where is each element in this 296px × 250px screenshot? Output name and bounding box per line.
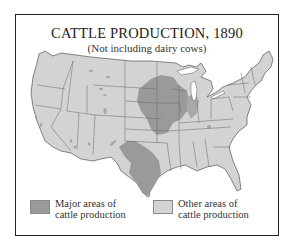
legend-swatch-other bbox=[153, 200, 173, 214]
legend-label-other: Other areas of cattle production bbox=[178, 198, 249, 220]
legend-label-major: Major areas of cattle production bbox=[55, 198, 126, 220]
legend-other: Other areas of cattle production bbox=[153, 198, 249, 220]
legend-major: Major areas of cattle production bbox=[30, 198, 126, 220]
legend-swatch-major bbox=[30, 200, 50, 214]
map-frame: CATTLE PRODUCTION, 1890 (Not including d… bbox=[15, 14, 279, 236]
